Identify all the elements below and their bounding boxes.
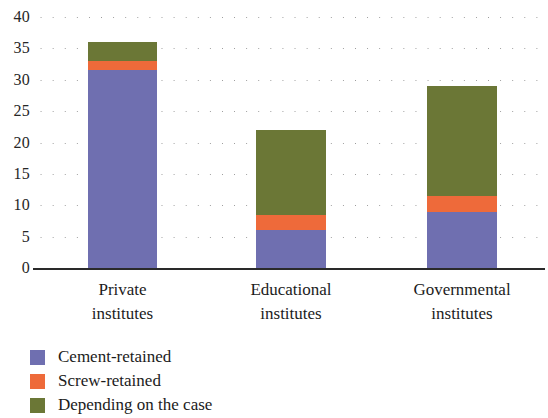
- legend-swatch-icon: [30, 398, 45, 413]
- category-label-line: institutes: [382, 302, 542, 326]
- bar-1: [88, 42, 157, 268]
- category-label-line: institutes: [43, 302, 203, 326]
- category-label-line: Educational: [211, 278, 371, 302]
- bar-segment: [88, 61, 157, 70]
- legend-item[interactable]: Depending on the case: [30, 393, 430, 417]
- category-label-line: Private: [43, 278, 203, 302]
- bar-segment: [256, 130, 326, 215]
- x-axis-category-label: Privateinstitutes: [43, 278, 203, 326]
- x-axis-category-labels: PrivateinstitutesEducationalinstitutesGo…: [0, 278, 548, 338]
- category-label-line: institutes: [211, 302, 371, 326]
- bar-segment: [427, 196, 497, 212]
- x-axis-category-label: Governmentalinstitutes: [382, 278, 542, 326]
- bar-segment: [256, 230, 326, 268]
- bar-segment: [427, 212, 497, 268]
- legend-item[interactable]: Cement-retained: [30, 345, 430, 369]
- bar-segment: [427, 86, 497, 196]
- legend-swatch-icon: [30, 374, 45, 389]
- plot-area: 4035302520151050: [0, 0, 548, 280]
- x-axis-category-label: Educationalinstitutes: [211, 278, 371, 326]
- bar-segment: [88, 70, 157, 268]
- bar-segment: [256, 215, 326, 231]
- chart-legend: Cement-retainedScrew-retainedDepending o…: [30, 345, 430, 417]
- category-label-line: Governmental: [382, 278, 542, 302]
- legend-label: Screw-retained: [58, 371, 161, 391]
- bars-group: [0, 0, 548, 280]
- bar-segment: [88, 42, 157, 61]
- bar-2: [256, 130, 326, 268]
- legend-label: Cement-retained: [58, 347, 171, 367]
- legend-swatch-icon: [30, 350, 45, 365]
- chart-page: 4035302520151050 PrivateinstitutesEducat…: [0, 0, 548, 418]
- legend-label: Depending on the case: [58, 395, 212, 415]
- bar-3: [427, 86, 497, 268]
- legend-item[interactable]: Screw-retained: [30, 369, 430, 393]
